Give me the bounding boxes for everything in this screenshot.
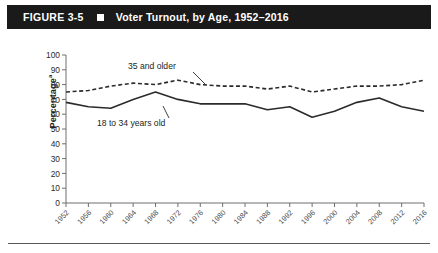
y-tick-label: 60	[51, 109, 61, 119]
x-tick-label: 1968	[142, 208, 160, 226]
y-tick-label: 70	[51, 95, 61, 105]
x-tick-label: 1964	[120, 208, 138, 226]
y-tick-label: 30	[51, 154, 61, 164]
x-tick-label: 1984	[232, 208, 250, 226]
series-line-35-and-older	[66, 80, 424, 92]
annotation-18-to-34: 18 to 34 years old	[97, 118, 166, 128]
y-tick-mark-group	[62, 55, 66, 203]
y-tick-label: 20	[51, 169, 61, 179]
figure-title: Voter Turnout, by Age, 1952–2016	[116, 11, 289, 23]
y-tick-label: 0	[55, 198, 60, 208]
x-tick-label: 1960	[98, 208, 116, 226]
x-tick-label-group: 1952195619601964196819721976198019841988…	[53, 208, 429, 226]
figure-bottom-rule	[8, 243, 430, 244]
annotation-35-and-older: 35 and older	[128, 61, 176, 71]
x-tick-label: 2004	[344, 208, 362, 226]
figure-container: FIGURE 3-5 Voter Turnout, by Age, 1952–2…	[0, 0, 438, 253]
x-tick-label: 2012	[389, 208, 407, 226]
voter-turnout-line-chart: 0102030405060708090100 19521956196019641…	[0, 29, 438, 229]
x-tick-label: 1988	[254, 208, 272, 226]
y-tick-label: 100	[46, 50, 60, 60]
x-tick-mark-group	[66, 203, 424, 207]
x-tick-label: 1976	[187, 208, 205, 226]
y-tick-label: 10	[51, 183, 61, 193]
x-tick-label: 2008	[366, 208, 384, 226]
x-tick-label: 1980	[210, 208, 228, 226]
series-line-18-to-34	[66, 92, 424, 117]
y-tick-label: 40	[51, 139, 61, 149]
x-tick-label: 1996	[299, 208, 317, 226]
square-bullet-icon	[97, 14, 104, 21]
y-tick-label: 50	[51, 124, 61, 134]
chart-plot-area: 0102030405060708090100 19521956196019641…	[0, 29, 438, 229]
figure-number: FIGURE 3-5	[23, 11, 84, 23]
y-tick-label-group: 0102030405060708090100	[46, 50, 60, 208]
annotation-leader-younger	[163, 106, 169, 118]
y-tick-label: 90	[51, 65, 61, 75]
x-tick-label: 2000	[321, 208, 339, 226]
annotation-leader-older	[193, 72, 206, 85]
x-tick-label: 1952	[53, 208, 71, 226]
x-tick-label: 1956	[75, 208, 93, 226]
x-tick-label: 1992	[277, 208, 295, 226]
y-tick-label: 80	[51, 80, 61, 90]
x-tick-label: 2016	[411, 208, 429, 226]
figure-title-bar: FIGURE 3-5 Voter Turnout, by Age, 1952–2…	[7, 5, 431, 29]
x-tick-label: 1972	[165, 208, 183, 226]
